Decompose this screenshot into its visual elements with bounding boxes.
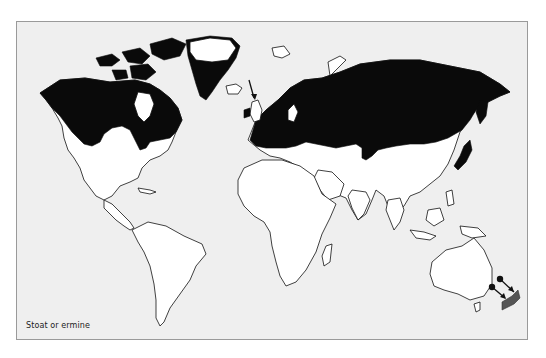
iceland (226, 84, 242, 94)
japan (454, 140, 472, 170)
philippines (446, 190, 454, 206)
borneo (426, 208, 444, 226)
tasmania (474, 302, 480, 312)
svalbard (272, 46, 290, 58)
indonesia (410, 230, 436, 240)
new-zealand (502, 290, 520, 310)
australia (430, 238, 492, 300)
great-britain (250, 100, 262, 122)
new-guinea (460, 226, 486, 238)
north-america (40, 38, 186, 230)
south-america (132, 222, 206, 326)
map-caption: Stoat or ermine (26, 321, 90, 330)
ireland (244, 108, 250, 118)
madagascar (322, 244, 332, 266)
world-map (0, 0, 546, 358)
